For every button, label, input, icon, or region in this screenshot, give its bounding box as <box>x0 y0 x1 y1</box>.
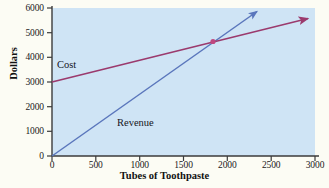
y-tick-5000: 5000 <box>18 28 44 38</box>
series-label-revenue: Revenue <box>117 117 154 128</box>
x-tick-500: 500 <box>89 160 103 170</box>
x-tick-1000: 1000 <box>130 160 149 170</box>
break-even-point-marker <box>210 39 215 44</box>
x-tick-2500: 2500 <box>262 160 281 170</box>
y-tick-4000: 4000 <box>18 52 44 62</box>
y-tick-2000: 2000 <box>18 102 44 112</box>
x-tick-3000: 3000 <box>306 160 325 170</box>
y-tick-6000: 6000 <box>18 3 44 13</box>
y-tick-3000: 3000 <box>18 77 44 87</box>
x-tick-1500: 1500 <box>174 160 193 170</box>
y-axis-title: Dollars <box>8 35 19 93</box>
plot-background <box>52 8 315 156</box>
x-tick-2000: 2000 <box>218 160 237 170</box>
series-label-cost: Cost <box>57 59 76 70</box>
chart-figure: 6000 5000 4000 3000 2000 1000 0 0 500 10… <box>0 0 329 188</box>
y-tick-1000: 1000 <box>18 126 44 136</box>
x-tick-0: 0 <box>50 160 55 170</box>
y-axis-ticks <box>47 8 52 156</box>
y-tick-0: 0 <box>18 151 44 161</box>
x-axis-title: Tubes of Toothpaste <box>0 170 329 181</box>
